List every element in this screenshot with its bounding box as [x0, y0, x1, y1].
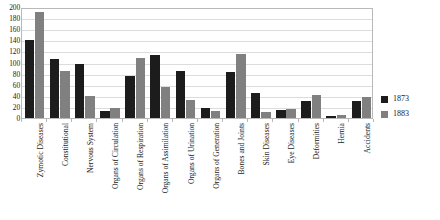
- bar[interactable]: [236, 54, 246, 118]
- x-axis-label: Eye Diseases: [288, 123, 296, 163]
- bar[interactable]: [110, 108, 120, 118]
- legend-label: 1883: [393, 110, 409, 118]
- y-tick-label: 40: [13, 93, 20, 100]
- y-tick-label: 140: [9, 38, 20, 45]
- legend-swatch: [381, 111, 388, 118]
- bar[interactable]: [50, 59, 60, 118]
- x-tick: [222, 119, 223, 122]
- bar[interactable]: [161, 87, 171, 118]
- bar[interactable]: [211, 111, 221, 118]
- bar-group: [326, 9, 346, 118]
- plot-area: [21, 8, 373, 119]
- x-tick: [298, 119, 299, 122]
- bar[interactable]: [25, 40, 35, 118]
- x-tick: [96, 119, 97, 122]
- y-tick-label: 80: [13, 71, 20, 78]
- legend-item[interactable]: 1873: [381, 93, 439, 105]
- legend-label: 1873: [393, 95, 409, 103]
- bar[interactable]: [226, 72, 236, 118]
- x-tick: [147, 119, 148, 122]
- y-tick-label: 120: [9, 49, 20, 56]
- x-tick: [348, 119, 349, 122]
- bar[interactable]: [100, 111, 110, 118]
- bar[interactable]: [312, 95, 322, 118]
- bar[interactable]: [60, 71, 70, 118]
- legend-item[interactable]: 1883: [381, 108, 439, 120]
- bars-layer: [22, 9, 372, 118]
- x-axis-label: Deformities: [313, 123, 321, 159]
- y-tick-label: 200: [9, 4, 20, 11]
- y-tick-label: 60: [13, 82, 20, 89]
- x-axis-label: Zymotic Diseases: [37, 123, 45, 177]
- bar[interactable]: [301, 101, 311, 118]
- x-tick: [46, 119, 47, 122]
- chart-plot-wrapper: 020406080100120140160180200 Zymotic Dise…: [0, 0, 440, 220]
- bar-group: [50, 9, 70, 118]
- y-axis: 020406080100120140160180200: [0, 8, 20, 119]
- bar[interactable]: [35, 12, 45, 118]
- x-axis-label: Bones and Joints: [238, 123, 246, 174]
- x-axis-label: Accidents: [364, 123, 372, 153]
- bar-group: [125, 9, 145, 118]
- bar-group: [100, 9, 120, 118]
- x-tick: [197, 119, 198, 122]
- x-tick: [21, 119, 22, 122]
- x-tick: [122, 119, 123, 122]
- bar[interactable]: [362, 97, 372, 118]
- bar[interactable]: [352, 101, 362, 118]
- x-axis-category-labels: Zymotic DiseasesConstitutionalNervous Sy…: [21, 123, 373, 218]
- bar[interactable]: [150, 55, 160, 118]
- bar[interactable]: [176, 71, 186, 118]
- bar[interactable]: [201, 108, 211, 118]
- x-axis-label: Organs of Assimilation: [162, 123, 170, 193]
- x-tick: [71, 119, 72, 122]
- bar-group: [301, 9, 321, 118]
- x-axis-label: Skin Diseases: [263, 123, 271, 165]
- bar-group: [352, 9, 372, 118]
- chart-legend: 18731883: [381, 93, 439, 123]
- y-tick-label: 0: [16, 115, 20, 122]
- x-axis-label: Organs of Respiration: [137, 123, 145, 190]
- bar-group: [150, 9, 170, 118]
- bar[interactable]: [261, 112, 271, 118]
- y-tick-label: 100: [9, 60, 20, 67]
- x-tick: [323, 119, 324, 122]
- bar[interactable]: [326, 116, 336, 118]
- x-tick: [373, 119, 374, 122]
- bar-group: [251, 9, 271, 118]
- x-tick: [247, 119, 248, 122]
- bar-group: [201, 9, 221, 118]
- legend-swatch: [381, 96, 388, 103]
- bar[interactable]: [276, 110, 286, 118]
- bar-group: [176, 9, 196, 118]
- x-axis-label: Hernia: [338, 123, 346, 144]
- x-tick: [272, 119, 273, 122]
- bar-group: [75, 9, 95, 118]
- x-axis-label: Nervous System: [87, 123, 95, 173]
- y-tick-label: 180: [9, 15, 20, 22]
- bar[interactable]: [186, 100, 196, 118]
- bar-group: [276, 9, 296, 118]
- x-axis-label: Constitutional: [62, 123, 70, 166]
- bar[interactable]: [75, 64, 85, 118]
- bar-group: [226, 9, 246, 118]
- bar[interactable]: [125, 76, 135, 118]
- bar[interactable]: [136, 58, 146, 118]
- x-axis-label: Organs of Circulation: [112, 123, 120, 189]
- y-tick-label: 160: [9, 26, 20, 33]
- bar-group: [25, 9, 45, 118]
- y-tick-label: 20: [13, 104, 20, 111]
- x-tick: [172, 119, 173, 122]
- x-axis-label: Organs of Urination: [188, 123, 196, 184]
- bar[interactable]: [85, 96, 95, 118]
- bar-chart: 020406080100120140160180200 Zymotic Dise…: [0, 0, 440, 220]
- x-axis-label: Organs of Generation: [213, 123, 221, 189]
- bar[interactable]: [337, 115, 347, 118]
- bar[interactable]: [286, 109, 296, 118]
- bar[interactable]: [251, 93, 261, 118]
